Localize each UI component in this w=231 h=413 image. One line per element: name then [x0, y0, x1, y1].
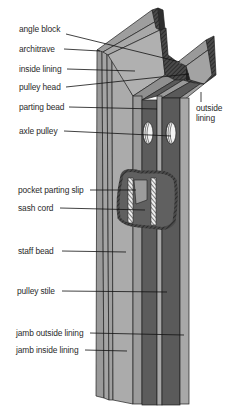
label-jamb-inside-lining: jamb inside lining	[16, 345, 78, 355]
label-axle-pulley: axle pulley	[19, 126, 57, 136]
label-angle-block: angle block	[19, 24, 60, 34]
label-architrave: architrave	[19, 44, 55, 54]
label-outside-lining: outside lining	[196, 103, 222, 123]
pulley-wheel-left	[143, 122, 153, 144]
label-pocket-parting-slip: pocket parting slip	[18, 185, 84, 195]
label-inside-lining: inside lining	[19, 64, 61, 74]
label-pulley-stile: pulley stile	[17, 286, 55, 296]
pulley-wheel-right	[166, 122, 176, 144]
label-jamb-outside-lining: jamb outside lining	[16, 328, 83, 338]
label-sash-cord: sash cord	[18, 203, 53, 213]
pocket-cutaway	[118, 171, 176, 229]
label-pulley-head: pulley head	[19, 82, 61, 92]
label-staff-bead: staff bead	[18, 246, 54, 256]
label-parting-bead: parting bead	[19, 102, 64, 112]
pulley-stile-body	[133, 96, 189, 405]
